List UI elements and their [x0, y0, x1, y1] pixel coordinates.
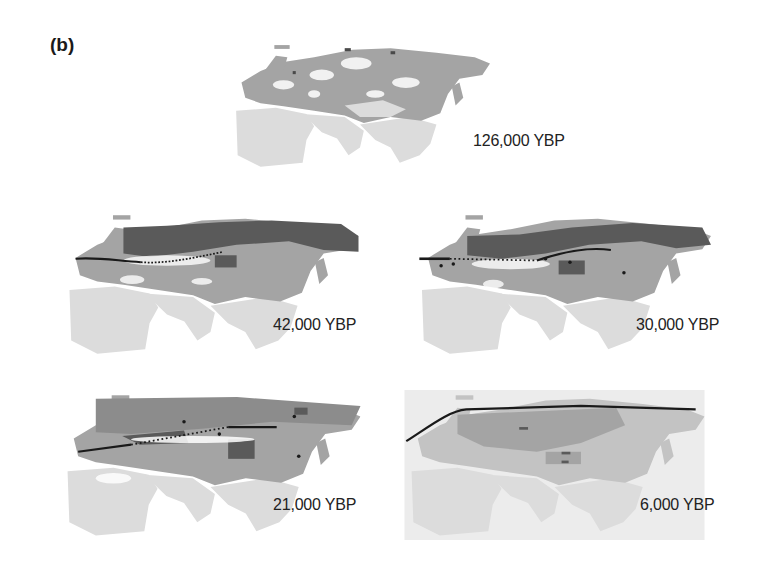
map-42k	[38, 210, 383, 358]
panel-label: (b)	[50, 34, 74, 56]
map-30k	[388, 210, 738, 358]
eurasia-map-30k	[388, 210, 738, 358]
map-label-6k: 6,000 YBP	[640, 496, 714, 514]
eurasia-map-6k	[382, 390, 727, 540]
eurasia-map-42k	[38, 210, 383, 358]
map-label-30k: 30,000 YBP	[636, 316, 719, 334]
eurasia-map-21k	[38, 390, 383, 540]
map-6k	[382, 390, 727, 540]
map-21k	[38, 390, 383, 540]
map-label-126k: 126,000 YBP	[473, 132, 565, 150]
map-label-42k: 42,000 YBP	[273, 316, 356, 334]
map-126k	[230, 28, 490, 183]
eurasia-map-126k	[230, 28, 490, 183]
map-label-21k: 21,000 YBP	[273, 496, 356, 514]
